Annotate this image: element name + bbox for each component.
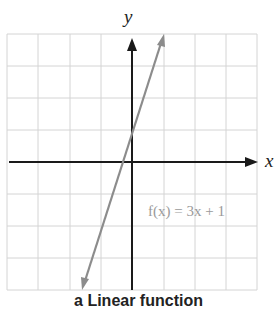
line-arrow-down-icon (81, 277, 89, 290)
function-label: f(x) = 3x + 1 (148, 203, 225, 220)
x-axis-label: x (265, 150, 273, 172)
x-axis-arrow-icon (245, 157, 258, 167)
y-axis (127, 38, 137, 290)
y-axis-arrow-icon (127, 38, 137, 51)
line-arrow-up-icon (157, 34, 165, 47)
x-axis (9, 157, 258, 167)
y-axis-label: y (124, 6, 132, 28)
figure-caption: a Linear function (0, 292, 277, 310)
